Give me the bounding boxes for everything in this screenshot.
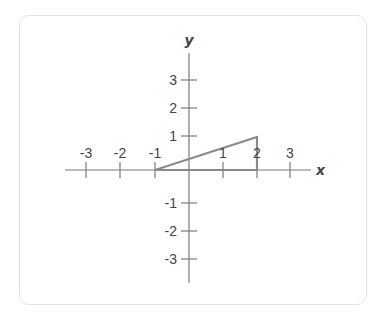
x-tick-label: -2 [114,145,127,161]
coordinate-plane: -3 -2 -1 1 2 3 3 2 1 -1 -2 -3 x y [0,0,385,319]
y-tick-label: 2 [169,100,177,116]
x-tick-label: 1 [219,145,227,161]
y-tick-label: 3 [169,72,177,88]
y-tick-label: -3 [165,251,178,267]
x-tick-label: 3 [286,145,294,161]
y-tick-label: -1 [165,195,178,211]
x-tick-label: 2 [253,145,261,161]
x-axis-label: x [315,162,326,178]
x-tick-label: -3 [80,145,93,161]
y-tick-label: 1 [169,128,177,144]
y-tick-label: -2 [165,223,178,239]
y-axis-label: y [184,32,194,48]
x-tick-label: -1 [149,145,162,161]
